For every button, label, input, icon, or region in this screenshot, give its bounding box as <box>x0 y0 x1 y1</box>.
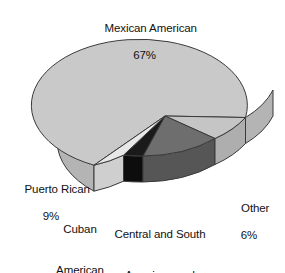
pie-chart: Mexican American 67% Puerto Rican 9% Cub… <box>0 0 285 273</box>
slice-label-central-south-american-line1: Central and South <box>106 228 214 242</box>
slice-label-puerto-rican-name: Puerto Rican <box>25 183 90 195</box>
slice-label-mexican-american-value: 67% <box>72 49 217 63</box>
slice-label-mexican-american-name: Mexican American <box>105 22 197 34</box>
pie-side-mexican-american-right <box>246 90 274 144</box>
slice-label-other: Other 6% <box>218 188 280 269</box>
slice-label-central-south-american: Central and South American and the Carib… <box>106 201 214 273</box>
pie-side-cuban-american <box>124 155 144 182</box>
slice-label-other-value: 6% <box>218 229 280 243</box>
slice-label-mexican-american: Mexican American 67% <box>72 8 217 89</box>
slice-label-central-south-american-line2: American and <box>106 269 214 273</box>
slice-label-other-name: Other <box>241 202 269 214</box>
